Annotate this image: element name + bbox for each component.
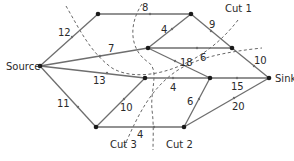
node-a [96,12,101,17]
capacity-label: 10 [254,55,267,66]
capacity-label: 13 [93,75,106,86]
capacity-label: 9 [209,19,215,30]
cut-1-label: Cut 1 [225,3,252,14]
capacity-label: 4 [137,129,143,140]
sink-label: Sink [275,73,294,84]
capacity-label: 7 [108,43,114,54]
node-c [146,46,151,51]
capacity-label: 8 [142,2,148,13]
node-f [208,76,213,81]
arrow-icon [210,30,212,32]
arrow-icon [106,72,108,74]
capacity-label: 18 [180,57,193,68]
cut-2-label: Cut 2 [166,139,193,150]
node-g [94,125,99,130]
arrow-icon [171,28,173,30]
arrow-icon [99,55,101,57]
capacity-label: 6 [200,52,206,63]
arrow-icon [198,98,200,100]
capacity-label: 11 [57,98,70,109]
edge-c-b [148,14,191,48]
capacity-label: 6 [187,96,193,107]
node-sink [267,76,272,81]
node-b [189,12,194,17]
arrow-icon [233,97,235,99]
capacity-label: 10 [120,102,133,113]
arrow-icon [174,60,176,62]
arrow-icon [71,36,73,38]
arrow-icon [153,126,155,128]
node-d [230,46,235,51]
arrow-icon [236,77,238,79]
cut-1-line [66,6,238,75]
capacity-label: 20 [232,101,245,112]
capacity-label: 4 [170,82,176,93]
flow-network-diagram: Source Sink 12 7 13 11 8 4 9 6 10 18 4 1… [0,0,294,161]
arrow-icon [172,77,174,79]
capacity-label: 15 [231,81,244,92]
arrow-icon [149,13,151,15]
arrow-icon [123,98,125,100]
cut-3-label: Cut 3 [110,139,137,150]
source-label: Source [6,61,40,72]
arrow-icon [196,47,198,49]
arrow-icon [77,106,79,108]
node-h [182,125,187,130]
node-e [143,76,148,81]
capacity-label: 12 [58,27,71,38]
capacity-label: 4 [161,24,167,35]
edge-source-g [40,66,96,127]
